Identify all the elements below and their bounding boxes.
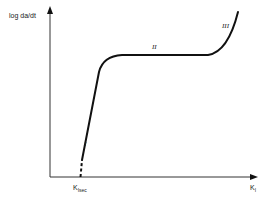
threshold-label-sub: Isec (78, 187, 87, 193)
region-label-i: I (84, 141, 86, 148)
y-axis-arrow-icon (47, 6, 53, 14)
region-label-iii: III (222, 23, 229, 30)
x-axis-arrow-icon (250, 174, 258, 180)
y-axis-label: log da/dt (9, 12, 36, 19)
threshold-label: KIsec (73, 184, 87, 193)
threshold-dashed-line (81, 160, 83, 177)
diagram-canvas (0, 0, 270, 199)
crack-growth-curve (82, 12, 238, 160)
x-axis-label: KI (250, 184, 256, 193)
region-label-ii: II (152, 44, 157, 51)
x-axis-label-sub: I (255, 187, 256, 193)
